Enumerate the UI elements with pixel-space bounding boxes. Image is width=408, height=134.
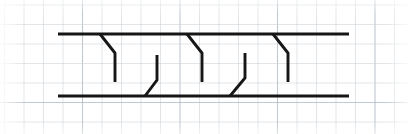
line-drawing-layer bbox=[0, 0, 408, 134]
figure-root bbox=[0, 0, 408, 134]
branch-connector-4 bbox=[230, 53, 245, 96]
branch-connector-1 bbox=[100, 34, 115, 82]
branch-connector-2 bbox=[145, 55, 157, 96]
branch-connector-5 bbox=[273, 34, 288, 82]
branch-connector-3 bbox=[187, 34, 202, 82]
